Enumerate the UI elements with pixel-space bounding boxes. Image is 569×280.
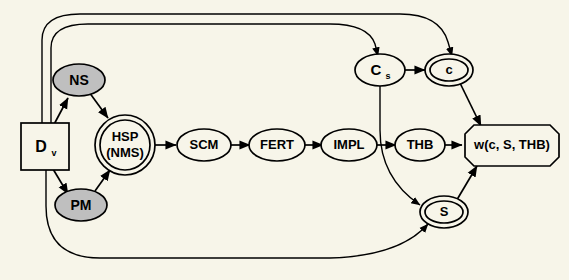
node-fert[interactable]: FERT <box>249 129 305 161</box>
node-c-label: c <box>445 62 452 77</box>
diagram-canvas: D v NS PM HSP (NMS) SCM FERT <box>0 0 569 280</box>
node-ns[interactable]: NS <box>53 64 105 96</box>
node-hsp[interactable]: HSP (NMS) <box>95 115 155 175</box>
node-hsp-label: HSP <box>112 129 139 144</box>
node-hsp-sublabel: (NMS) <box>106 145 144 160</box>
node-pm[interactable]: PM <box>55 189 107 221</box>
node-pm-label: PM <box>71 197 92 213</box>
flow-diagram: D v NS PM HSP (NMS) SCM FERT <box>0 0 569 280</box>
node-cs-sublabel: s <box>385 71 390 81</box>
node-cs[interactable]: C s <box>355 54 405 86</box>
node-dv-sublabel: v <box>51 148 56 158</box>
node-cs-label: C <box>371 61 382 78</box>
node-s[interactable]: S <box>420 196 468 228</box>
node-scm[interactable]: SCM <box>177 129 231 161</box>
node-impl[interactable]: IMPL <box>321 129 377 161</box>
edge-pm-to-hsp <box>95 170 110 191</box>
node-dv-label: D <box>35 138 47 155</box>
node-impl-label: IMPL <box>333 137 364 152</box>
node-w-label: w(c, S, THB) <box>473 137 550 152</box>
node-s-label: S <box>440 204 449 219</box>
node-thb[interactable]: THB <box>395 129 445 161</box>
node-ns-label: NS <box>69 72 88 88</box>
edge-c-to-w <box>460 83 481 126</box>
node-fert-label: FERT <box>260 137 294 152</box>
edge-ns-to-hsp <box>89 92 108 118</box>
node-thb-label: THB <box>407 137 434 152</box>
edge-s-to-w <box>455 166 477 203</box>
node-w[interactable]: w(c, S, THB) <box>465 125 559 166</box>
node-dv[interactable]: D v <box>21 123 69 170</box>
node-scm-label: SCM <box>190 137 219 152</box>
node-c[interactable]: c <box>425 54 473 86</box>
